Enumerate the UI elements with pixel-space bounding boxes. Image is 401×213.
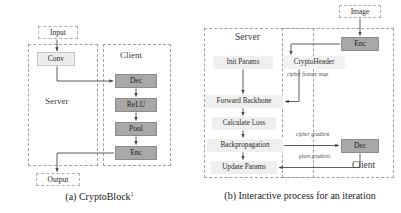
region-label-client-b: Client [352,160,375,170]
region-label-client-a: Client [120,50,142,60]
edge-label-cipher-feature-map: cipher feature map [287,71,328,77]
edge-label-plain-gradient: plain gradient [299,153,330,159]
node-cryptoheader: CryptoHeader [283,56,345,69]
caption-a: (a) CryptoBlock1 [0,190,199,202]
caption-a-superscript: 1 [131,190,134,197]
caption-a-prefix: (a) [65,191,76,202]
node-enc-b: Enc [341,37,379,51]
node-pool: Pool [115,122,157,136]
io-box-input: Input [38,26,78,39]
node-relu: ReLU [115,98,157,112]
node-dec-b: Dec [341,139,379,153]
region-label-server-b: Server [235,32,260,42]
io-box-image: Image [339,5,381,18]
node-calculate-loss: Calculate Loss [212,117,276,130]
subfigure-a: Server Client Input Output Conv Dec ReLU… [0,0,199,213]
region-label-server-a: Server [45,96,69,106]
node-dec-a: Dec [115,74,157,88]
caption-b-prefix: (b) [224,190,236,201]
node-conv: Conv [37,52,75,66]
node-init-params: Init Params [213,56,273,69]
caption-b-text: Interactive process for an iteration [239,190,376,201]
node-enc-a: Enc [115,146,157,160]
subfigure-b: Server Client Image Init Params CryptoHe… [199,0,401,213]
caption-b: (b) Interactive process for an iteration [199,190,401,201]
caption-a-text: CryptoBlock [79,191,131,202]
edge-label-cipher-gradient: cipher gradient [296,131,330,137]
node-update-params: Update Params [211,161,277,174]
node-forward-backbone: Forward Backbone [205,95,283,108]
io-box-output: Output [36,173,80,186]
figure-root: Server Client Input Output Conv Dec ReLU… [0,0,401,213]
node-backpropagation: Backpropagation [207,139,283,152]
